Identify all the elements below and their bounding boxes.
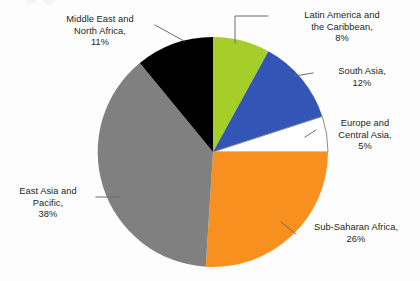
slice-label-east-asia-and-pacific: East Asia and Pacific, 38% [2,186,94,221]
pie-slice-sub-saharan-africa[interactable] [206,152,328,267]
slice-label-south-asia: South Asia, 12% [310,66,414,89]
slice-label-latin-america-and-the-caribbean: Latin America and the Caribbean, 8% [272,10,412,45]
slice-label-sub-saharan-africa: Sub-Saharan Africa, 26% [294,222,418,245]
leader-line-latin-america [235,16,268,43]
slice-label-middle-east-and-north-africa: Middle East and North Africa, 11% [44,14,156,49]
leader-line-middle-east-north-africa [155,25,184,41]
slice-label-europe-and-central-asia: Europe and Central Asia, 5% [316,118,414,153]
pie-chart-figure: Latin America and the Caribbean, 8% Sout… [0,0,420,281]
